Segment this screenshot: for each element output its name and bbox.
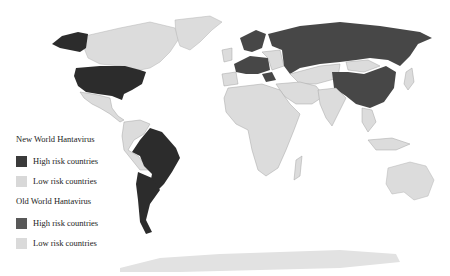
region-alaska xyxy=(52,32,88,52)
region-scandinavia xyxy=(240,30,266,52)
region-greenland xyxy=(175,16,222,50)
region-balkans xyxy=(262,72,276,82)
region-western-europe-low xyxy=(222,48,232,62)
region-antarctica xyxy=(120,250,400,272)
region-india xyxy=(318,88,346,126)
region-indonesia xyxy=(368,138,410,150)
region-southeast-asia xyxy=(362,108,376,132)
region-japan xyxy=(404,68,414,90)
world-map xyxy=(0,0,450,276)
region-canada xyxy=(84,22,178,70)
region-central-europe xyxy=(234,56,270,74)
region-madagascar xyxy=(294,156,302,180)
region-iberia xyxy=(222,72,238,86)
region-australia xyxy=(386,162,434,200)
